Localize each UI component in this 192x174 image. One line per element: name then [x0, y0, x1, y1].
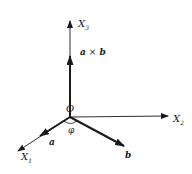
- x3-axis-label: X3: [77, 18, 89, 31]
- x2-axis: [70, 116, 168, 117]
- phi-label: φ: [68, 125, 75, 135]
- axb-label: a×b: [80, 47, 106, 57]
- x2-axis-label: X2: [172, 113, 184, 126]
- origin-label: O: [66, 103, 74, 114]
- x1-axis-label: X1: [20, 151, 32, 164]
- angle-arc: [64, 121, 77, 124]
- a-vector: [40, 117, 70, 136]
- b-vector: [70, 117, 124, 146]
- cross-product-diagram: X3 a×b O X2 φ a b X1: [0, 0, 192, 174]
- b-label: b: [125, 150, 131, 160]
- a-label: a: [49, 137, 55, 147]
